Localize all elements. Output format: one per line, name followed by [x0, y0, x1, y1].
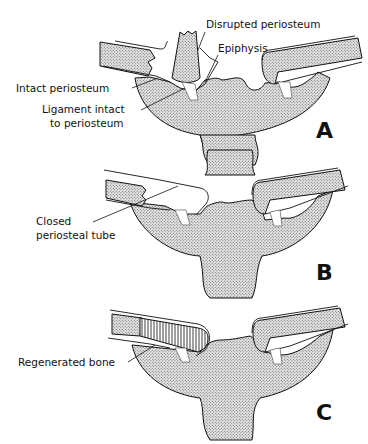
central-stem-top-b — [205, 150, 255, 175]
label-closed-line1: Closed — [36, 215, 71, 227]
figure-canvas: Disrupted periosteum Epiphysis Intact pe… — [0, 0, 368, 444]
panel-b: Closed periosteal tube B — [36, 150, 348, 298]
central-bone-b — [130, 190, 333, 298]
label-ligament-line1: Ligament intact — [42, 103, 125, 115]
panel-letter-a: A — [316, 118, 333, 143]
panel-letter-b: B — [316, 260, 333, 285]
label-disrupted-periosteum: Disrupted periosteum — [206, 18, 320, 30]
panel-a: Disrupted periosteum Epiphysis Intact pe… — [16, 18, 362, 165]
label-ligament-line2: to periosteum — [50, 117, 124, 129]
panel-letter-c: C — [316, 400, 332, 425]
label-intact-periosteum: Intact periosteum — [16, 82, 109, 94]
panel-c: Regenerated bone C — [18, 306, 348, 440]
label-epiphysis: Epiphysis — [218, 42, 268, 54]
epiphysis-fragment-a — [172, 31, 200, 83]
label-closed-line2: periosteal tube — [36, 229, 115, 241]
left-shaft-c — [112, 314, 142, 336]
label-regenerated-bone: Regenerated bone — [18, 356, 115, 368]
